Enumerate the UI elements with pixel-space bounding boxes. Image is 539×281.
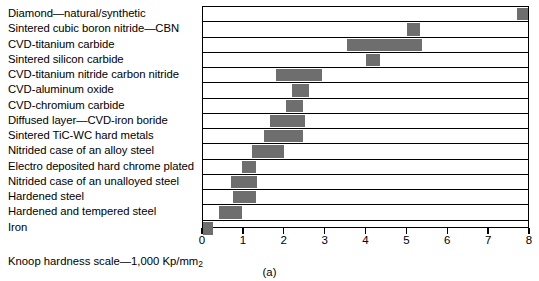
x-axis-tick-label: 2 (281, 234, 287, 246)
chart-row (203, 38, 528, 53)
category-label: CVD-chromium carbide (8, 98, 200, 113)
range-bar (347, 39, 422, 51)
chart-plot-area (202, 6, 529, 228)
category-label: Electro deposited hard chrome plated (8, 159, 200, 174)
category-label: Iron (8, 220, 200, 235)
x-axis-tick-label: 4 (362, 234, 368, 246)
category-label: CVD-titanium carbide (8, 37, 200, 52)
chart-row (203, 22, 528, 37)
chart-row (203, 83, 528, 98)
range-bar (270, 115, 305, 127)
chart-row (203, 129, 528, 144)
range-bar (219, 206, 241, 218)
category-label: Sintered silicon carbide (8, 52, 200, 67)
x-axis-tick-label: 0 (199, 234, 205, 246)
category-label: CVD-titanium nitride carbon nitride (8, 67, 200, 82)
range-bar (407, 23, 420, 35)
chart-row (203, 68, 528, 83)
range-bar (286, 100, 302, 112)
chart-row (203, 175, 528, 190)
range-bar (242, 161, 256, 173)
x-axis: 012345678 (202, 228, 529, 254)
chart-row (203, 53, 528, 68)
x-axis-tick-label: 5 (403, 234, 409, 246)
category-label: CVD-aluminum oxide (8, 82, 200, 97)
range-bar (252, 145, 285, 157)
range-bar (517, 8, 528, 20)
category-label: Diffused layer—CVD-iron boride (8, 113, 200, 128)
figure-label: (a) (0, 266, 539, 278)
chart-row (203, 99, 528, 114)
range-bar (264, 130, 303, 142)
category-label: Nitrided case of an unalloyed steel (8, 174, 200, 189)
category-label-column: Diamond—natural/syntheticSintered cubic … (8, 6, 200, 228)
category-label: Hardened and tempered steel (8, 204, 200, 219)
range-bar (233, 191, 255, 203)
knoop-hardness-figure: Diamond—natural/syntheticSintered cubic … (0, 0, 539, 281)
category-label: Hardened steel (8, 189, 200, 204)
x-axis-tick-label: 6 (444, 234, 450, 246)
range-bar (292, 84, 308, 96)
x-axis-tick-label: 1 (240, 234, 246, 246)
chart-row (203, 144, 528, 159)
category-label: Sintered TiC-WC hard metals (8, 128, 200, 143)
x-axis-tick-label: 7 (485, 234, 491, 246)
chart-row (203, 7, 528, 22)
chart-row (203, 205, 528, 220)
x-axis-tick-label: 8 (526, 234, 532, 246)
chart-row (203, 190, 528, 205)
chart-row (203, 160, 528, 175)
category-label: Diamond—natural/synthetic (8, 6, 200, 21)
chart-row (203, 114, 528, 129)
range-bar (366, 54, 380, 66)
x-axis-tick-label: 3 (321, 234, 327, 246)
range-bar (231, 176, 256, 188)
category-label: Nitrided case of an alloy steel (8, 143, 200, 158)
category-label: Sintered cubic boron nitride—CBN (8, 21, 200, 36)
range-bar (276, 69, 322, 81)
